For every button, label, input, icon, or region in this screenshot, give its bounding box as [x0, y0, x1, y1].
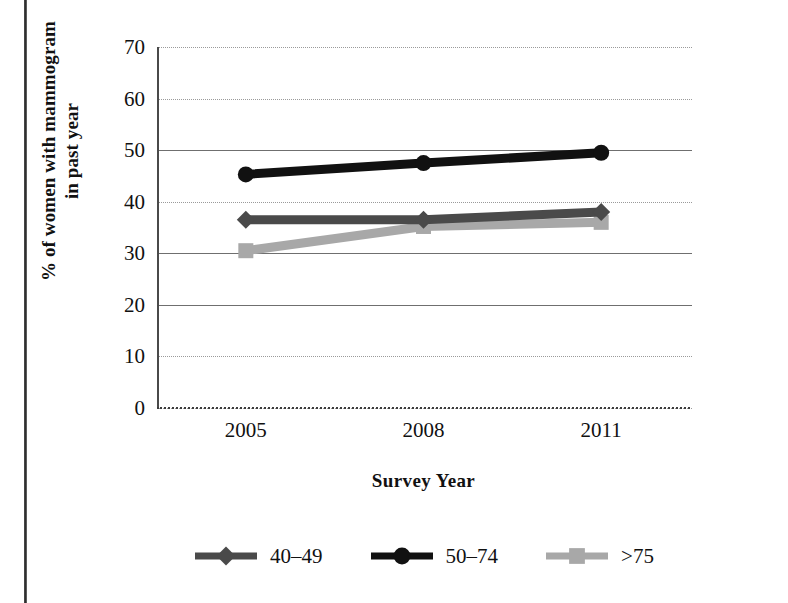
legend-item--75[interactable]: >75: [544, 545, 654, 567]
legend-label: 50–74: [446, 546, 499, 567]
y-tick-label-0: 0: [135, 398, 146, 419]
legend-label: >75: [621, 546, 654, 567]
legend-square-icon: [544, 545, 610, 567]
figure-container: % of women with mammogram in past year 0…: [0, 0, 788, 603]
y-tick-label-10: 10: [124, 346, 145, 367]
data-point-2005: [238, 166, 254, 182]
y-tick-label-60: 60: [124, 88, 145, 109]
x-tick-label-2008: 2008: [403, 420, 445, 441]
data-point-2011: [593, 145, 609, 161]
legend-circle-icon: [369, 545, 435, 567]
x-axis-title: Survey Year: [157, 470, 690, 492]
data-point-2008: [416, 155, 432, 171]
chart-legend: 40–4950–74>75: [157, 545, 690, 567]
legend-label: 40–49: [270, 546, 323, 567]
data-point-2005: [238, 243, 253, 258]
series-50-74: [238, 145, 609, 183]
y-axis-title-line-1: % of women with mammogram: [37, 21, 60, 281]
x-tick-label-2005: 2005: [225, 420, 267, 441]
y-tick-label-70: 70: [124, 37, 145, 58]
scanned-page-binding-line: [24, 0, 27, 603]
y-axis-title-line-2: in past year: [60, 103, 83, 199]
series-plot: [157, 47, 690, 408]
legend-item-40-49[interactable]: 40–49: [193, 545, 323, 567]
y-tick-label-20: 20: [124, 294, 145, 315]
y-tick-label-30: 30: [124, 243, 145, 264]
y-axis-title: % of women with mammogram in past year: [29, 0, 91, 321]
legend-diamond-icon: [193, 545, 259, 567]
y-tick-label-50: 50: [124, 140, 145, 161]
y-tick-label-40: 40: [124, 191, 145, 212]
x-tick-label-2011: 2011: [581, 420, 622, 441]
legend-item-50-74[interactable]: 50–74: [369, 545, 499, 567]
data-point-2005: [237, 211, 255, 229]
